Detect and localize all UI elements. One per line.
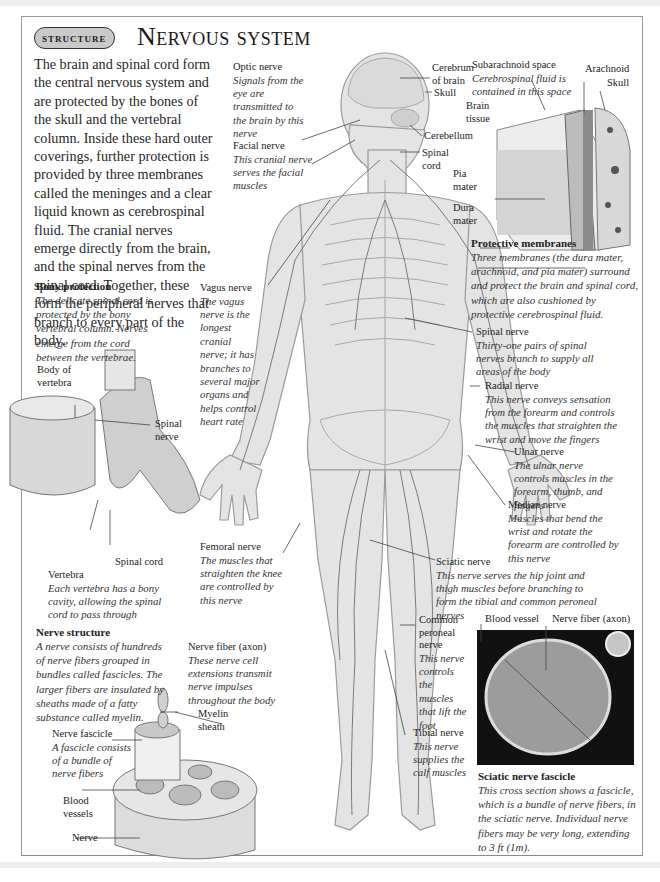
protective-membranes-desc: Three membranes (the dura mater, arachno… (471, 250, 639, 321)
vertebra-title: Vertebra (48, 569, 178, 582)
vagus-nerve-label: Vagus nerve The vagus nerve is the longe… (200, 282, 280, 429)
spinal-nerve-desc: Thirty-one pairs of spinal nerves branch… (476, 339, 596, 379)
subarachnoid-label: Subarachnoid space Cerebrospinal fluid i… (472, 59, 582, 98)
nerve-label: Nerve (72, 832, 98, 845)
skull-label: Skull (434, 87, 456, 100)
median-nerve-title: Median nerve (508, 499, 623, 512)
spinal-nerve-vertebra-label: Spinal nerve (155, 418, 185, 443)
micrograph-image (477, 630, 634, 765)
nerve-fascicle-desc: A fascicle consists of a bundle of nerve… (52, 741, 132, 781)
facial-nerve-label: Facial nerve This cranial nerve serves t… (233, 140, 318, 193)
vagus-nerve-title: Vagus nerve (200, 282, 280, 295)
tibial-nerve-desc: This nerve supplies the calf muscles (413, 740, 473, 780)
body-of-vertebra-label: Body of vertebra (37, 364, 77, 389)
dura-mater-label: Dura mater (453, 202, 483, 227)
ulnar-nerve-title: Ulnar nerve (514, 446, 619, 459)
optic-nerve-desc: Signals from the eye are transmitted to … (233, 74, 308, 141)
nerve-fascicle-title: Nerve fascicle (52, 728, 132, 741)
blood-vessels-label: Blood vessels (63, 795, 98, 820)
femoral-nerve-desc: The muscles that straighten the knee are… (200, 554, 285, 608)
protective-membranes-title: Protective membranes (471, 237, 639, 250)
nerve-fascicle-label: Nerve fascicle A fascicle consists of a … (52, 728, 132, 781)
radial-nerve-title: Radial nerve (485, 380, 620, 393)
brain-tissue-label: Brain tissue (466, 100, 498, 125)
common-peroneal-nerve-desc: This nerve controls the muscles that lif… (419, 652, 469, 732)
spinal-cord-vertebra-label: Spinal cord (115, 556, 163, 569)
bony-protection-desc: The delicate spinal cord is protected by… (36, 293, 156, 364)
pia-mater-label: Pia mater (453, 168, 483, 193)
femoral-nerve-label: Femoral nerve The muscles that straighte… (200, 541, 285, 607)
protective-membranes-caption: Protective membranes Three membranes (th… (471, 237, 639, 321)
common-peroneal-nerve-label: Common peroneal nerve This nerve control… (419, 614, 469, 732)
radial-nerve-desc: This nerve conveys sensation from the fo… (485, 393, 620, 447)
micrograph-nerve-fiber-label: Nerve fiber (axon) (552, 613, 630, 626)
cerebellum-label: Cerebellum (424, 130, 473, 143)
tibial-nerve-label: Tibial nerve This nerve supplies the cal… (413, 727, 473, 780)
vertebra-desc: Each vertebra has a bony cavity, allowin… (48, 582, 178, 622)
optic-nerve-label: Optic nerve Signals from the eye are tra… (233, 61, 313, 141)
subarachnoid-title: Subarachnoid space (472, 59, 582, 72)
common-peroneal-nerve-title: Common peroneal nerve (419, 614, 469, 652)
bony-protection-title: Bony protection (36, 280, 156, 293)
femoral-nerve-title: Femoral nerve (200, 541, 285, 554)
nerve-structure-title: Nerve structure (36, 626, 166, 639)
optic-nerve-title: Optic nerve (233, 61, 313, 74)
nerve-fiber-label: Nerve fiber (axon) These nerve cell exte… (188, 641, 293, 707)
facial-nerve-title: Facial nerve (233, 140, 318, 153)
micrograph-blood-vessel-label: Blood vessel (485, 613, 539, 626)
skull-meninges-label: Skull (607, 77, 629, 90)
radial-nerve-label: Radial nerve This nerve conveys sensatio… (485, 380, 620, 446)
spinal-nerve-label: Spinal nerve Thirty-one pairs of spinal … (476, 326, 596, 379)
meninges-diagram (497, 108, 630, 250)
myelin-sheath-label: Myelin sheath (198, 708, 238, 733)
arachnoid-label: Arachnoid (585, 63, 629, 76)
nerve-fiber-title: Nerve fiber (axon) (188, 641, 293, 654)
sciatic-nerve-title: Sciatic nerve (436, 556, 601, 569)
nerve-structure-desc: A nerve consists of hundreds of nerve fi… (36, 639, 166, 724)
facial-nerve-desc: This cranial nerve serves the facial mus… (233, 153, 315, 193)
sciatic-fascicle-caption: Sciatic nerve fascicle This cross sectio… (478, 770, 638, 854)
vagus-nerve-desc: The vagus nerve is the longest cranial n… (200, 295, 260, 429)
sciatic-fascicle-title: Sciatic nerve fascicle (478, 770, 638, 783)
bony-protection-caption: Bony protection The delicate spinal cord… (36, 280, 156, 364)
subarachnoid-desc: Cerebrospinal fluid is contained in this… (472, 72, 572, 99)
nerve-structure-caption: Nerve structure A nerve consists of hund… (36, 626, 166, 724)
tibial-nerve-title: Tibial nerve (413, 727, 473, 740)
sciatic-fascicle-desc: This cross section shows a fascicle, whi… (478, 783, 638, 854)
spinal-nerve-title: Spinal nerve (476, 326, 596, 339)
nerve-fiber-desc: These nerve cell extensions transmit ner… (188, 654, 293, 708)
vertebra-label: Vertebra Each vertebra has a bony cavity… (48, 569, 178, 622)
